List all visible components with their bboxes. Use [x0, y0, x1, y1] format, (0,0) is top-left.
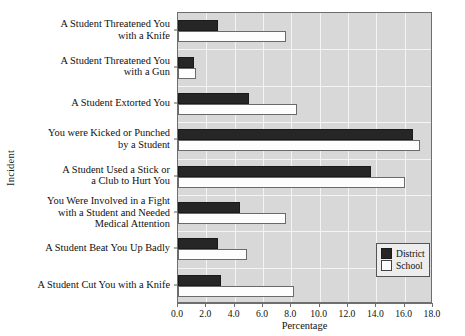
gridline-horizontal — [178, 159, 431, 160]
x-axis-title: Percentage — [177, 320, 432, 331]
x-axis-tick — [177, 303, 178, 307]
y-axis-category-label: You Were Involved in a Fight with a Stud… — [18, 195, 170, 230]
x-axis-tick — [319, 303, 320, 307]
x-axis-tick — [432, 303, 433, 307]
x-axis-tick — [234, 303, 235, 307]
bar-district — [178, 93, 249, 104]
y-axis-category-label: A Student Used a Stick or a Club to Hurt… — [18, 164, 170, 187]
x-axis-line — [177, 303, 432, 304]
legend-label-district: District — [396, 248, 425, 259]
gridline-vertical — [320, 13, 321, 302]
x-axis-tick-label: 14.0 — [367, 308, 384, 319]
x-axis-tick — [375, 303, 376, 307]
bar-school — [178, 213, 286, 224]
legend-swatch-district — [381, 248, 392, 259]
y-axis-category-label: You were Kicked or Punched by a Student — [18, 128, 170, 151]
bar-school — [178, 140, 420, 151]
x-axis-tick-label: 4.0 — [228, 308, 240, 319]
y-axis-category-label: A Student Threatened You with a Gun — [18, 55, 170, 78]
gridline-horizontal — [178, 195, 431, 196]
bar-school — [178, 286, 294, 297]
y-axis-title: Incident — [2, 118, 18, 218]
legend-label-school: School — [396, 260, 423, 271]
x-axis-tick — [290, 303, 291, 307]
gridline-horizontal — [178, 122, 431, 123]
y-axis-category-label: A Student Extorted You — [18, 97, 170, 109]
x-axis-tick — [262, 303, 263, 307]
bar-school — [178, 104, 297, 115]
gridline-horizontal — [178, 86, 431, 87]
y-axis-category-labels: A Student Threatened You with a KnifeA S… — [18, 12, 174, 303]
x-axis-tick-label: 10.0 — [310, 308, 327, 319]
legend: District School — [376, 243, 430, 277]
bar-district — [178, 57, 194, 68]
x-axis-tick-label: 16.0 — [395, 308, 412, 319]
bar-school — [178, 68, 196, 79]
x-axis-tick-label: 0.0 — [171, 308, 183, 319]
bar-chart: Incident A Student Threatened You with a… — [0, 0, 465, 336]
x-axis-tick — [205, 303, 206, 307]
legend-swatch-school — [381, 260, 392, 271]
bar-school — [178, 177, 405, 188]
bar-school — [178, 31, 286, 42]
x-axis-tick-label: 2.0 — [199, 308, 211, 319]
gridline-vertical — [291, 13, 292, 302]
x-axis-tick-label: 18.0 — [424, 308, 441, 319]
x-axis-tick — [347, 303, 348, 307]
x-axis-tick-label: 12.0 — [339, 308, 356, 319]
bar-district — [178, 20, 218, 31]
bar-district — [178, 275, 221, 286]
gridline-horizontal — [178, 49, 431, 50]
legend-item-school: School — [381, 260, 425, 271]
x-axis-tick — [404, 303, 405, 307]
gridline-vertical — [348, 13, 349, 302]
y-axis-category-label: A Student Cut You with a Knife — [18, 279, 170, 291]
gridline-vertical — [263, 13, 264, 302]
bar-district — [178, 202, 240, 213]
bar-school — [178, 249, 247, 260]
legend-item-district: District — [381, 248, 425, 259]
x-axis-tick-label: 6.0 — [256, 308, 268, 319]
bar-district — [178, 238, 218, 249]
x-axis-tick-label: 8.0 — [284, 308, 296, 319]
bar-district — [178, 166, 371, 177]
y-axis-category-label: A Student Beat You Up Badly — [18, 243, 170, 255]
bar-district — [178, 129, 413, 140]
gridline-horizontal — [178, 231, 431, 232]
y-axis-category-label: A Student Threatened You with a Knife — [18, 19, 170, 42]
